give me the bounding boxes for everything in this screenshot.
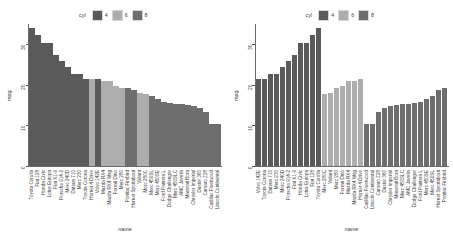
bar[interactable] <box>430 96 436 166</box>
bar[interactable] <box>394 105 400 166</box>
bar[interactable] <box>274 74 280 167</box>
bar[interactable] <box>203 112 209 166</box>
legend-swatch-6 <box>338 10 349 21</box>
legend-label-6: 6 <box>125 12 128 18</box>
bar[interactable] <box>358 79 364 166</box>
legend-item-8[interactable]: 8 <box>132 10 148 21</box>
bar[interactable] <box>155 99 161 166</box>
x-tick-label: Merc 450SL <box>430 170 435 195</box>
bar[interactable] <box>65 67 71 166</box>
bar[interactable] <box>59 61 65 166</box>
bar[interactable] <box>47 43 53 166</box>
x-tick-label: Toyota Corolla <box>316 170 321 199</box>
legend-item-4[interactable]: 4 <box>318 10 334 21</box>
chart-page: cyl 4 6 8 mpg 0102030 Toyota CorollaFiat… <box>0 0 453 244</box>
x-tick-label: Merc 450SE <box>424 170 429 195</box>
legend-item-8[interactable]: 8 <box>358 10 374 21</box>
bar[interactable] <box>400 104 406 166</box>
bar[interactable] <box>424 99 430 166</box>
y-axis-ticks: 0102030 <box>241 24 255 166</box>
bar[interactable] <box>71 74 77 167</box>
bar[interactable] <box>412 103 418 166</box>
bar[interactable] <box>310 35 316 166</box>
bar[interactable] <box>364 124 370 166</box>
bar[interactable] <box>418 102 424 166</box>
x-tick-label: Merc 280C <box>322 170 327 192</box>
bar[interactable] <box>262 79 268 166</box>
x-tick-label: Mazda RX4 <box>346 170 351 194</box>
bar[interactable] <box>161 102 167 166</box>
plot-area-right: mpg 0102030 Volvo 142EToyota CoronaDatsu… <box>227 24 453 244</box>
legend-title: cyl <box>79 12 86 18</box>
bar[interactable] <box>125 88 131 166</box>
bar[interactable] <box>268 74 274 167</box>
legend-label-8: 8 <box>145 12 148 18</box>
x-tick-label: Duster 360 <box>382 170 387 192</box>
legend-swatch-6 <box>112 10 123 21</box>
bar[interactable] <box>406 104 412 166</box>
bar[interactable] <box>53 55 59 166</box>
bar[interactable] <box>131 90 137 166</box>
x-tick-label: Toyota Corona <box>262 170 267 200</box>
bar[interactable] <box>286 61 292 166</box>
x-axis-label: name <box>28 226 222 232</box>
y-axis-label: mpg <box>231 76 241 116</box>
bar[interactable] <box>197 108 203 166</box>
x-tick-label: Honda Civic <box>298 170 303 195</box>
y-tick-label: 20 <box>22 85 27 91</box>
bar[interactable] <box>215 124 221 166</box>
x-tick-label: Datsun 710 <box>268 170 273 194</box>
legend-item-6[interactable]: 6 <box>338 10 354 21</box>
bar[interactable] <box>328 93 334 166</box>
bar[interactable] <box>173 104 179 166</box>
legend-item-4[interactable]: 4 <box>92 10 108 21</box>
bar[interactable] <box>107 81 113 166</box>
bar[interactable] <box>436 90 442 166</box>
bar[interactable] <box>388 106 394 166</box>
x-tick-label: Hornet Sportabout <box>436 170 441 208</box>
bar[interactable] <box>370 124 376 166</box>
bar[interactable] <box>179 104 185 166</box>
x-tick-label: Hornet 4 Drive <box>358 170 363 200</box>
bar[interactable] <box>41 43 47 166</box>
x-tick: Lincoln Continental <box>215 167 221 229</box>
bar[interactable] <box>185 105 191 166</box>
bar[interactable] <box>292 55 298 166</box>
bar[interactable] <box>119 88 125 166</box>
bar[interactable] <box>304 43 310 166</box>
bar[interactable] <box>376 112 382 166</box>
bar[interactable] <box>29 28 35 166</box>
y-tick-label: 10 <box>22 125 27 131</box>
x-tick-label: Lincoln Continental <box>216 170 221 209</box>
bar[interactable] <box>316 28 322 166</box>
bar[interactable] <box>35 35 41 166</box>
bar[interactable] <box>334 88 340 166</box>
x-axis-label: name <box>255 226 449 232</box>
bar[interactable] <box>298 43 304 166</box>
bar[interactable] <box>101 81 107 166</box>
bar[interactable] <box>83 79 89 166</box>
bar[interactable] <box>167 103 173 166</box>
bar[interactable] <box>352 81 358 166</box>
bar[interactable] <box>346 81 352 166</box>
bar[interactable] <box>442 88 448 166</box>
y-tick-label: 30 <box>22 44 27 50</box>
bar[interactable] <box>191 106 197 166</box>
bar[interactable] <box>382 108 388 166</box>
x-tick-label: Ford Pantera L <box>418 170 423 201</box>
bar[interactable] <box>256 79 262 166</box>
plot-area-left: mpg 0102030 Toyota CorollaFiat 128Honda … <box>0 24 227 244</box>
bar[interactable] <box>143 94 149 166</box>
bar[interactable] <box>280 67 286 166</box>
bar[interactable] <box>77 74 83 167</box>
bar[interactable] <box>340 86 346 166</box>
legend-item-6[interactable]: 6 <box>112 10 128 21</box>
bar[interactable] <box>89 79 95 166</box>
bar[interactable] <box>137 93 143 166</box>
y-tick-label: 10 <box>248 125 253 131</box>
bar[interactable] <box>113 86 119 166</box>
bar[interactable] <box>149 96 155 166</box>
bar[interactable] <box>95 79 101 166</box>
bar[interactable] <box>322 94 328 166</box>
bar[interactable] <box>209 124 215 166</box>
